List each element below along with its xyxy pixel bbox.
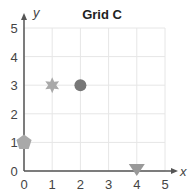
y-tick-label: 0	[10, 164, 17, 179]
x-tick-label: 0	[20, 177, 27, 192]
chart: Grid C y x 012345 012345	[0, 0, 195, 196]
x-tick-label: 4	[133, 177, 140, 192]
chart-title: Grid C	[82, 7, 122, 22]
y-tick-label: 1	[10, 135, 17, 150]
y-axis-label: y	[32, 5, 41, 20]
y-axis-arrow-icon	[21, 13, 27, 20]
x-axis-label: x	[179, 164, 187, 179]
y-tick-label: 5	[10, 21, 17, 36]
y-tick-label: 2	[10, 107, 17, 122]
y-tick-label: 4	[10, 50, 17, 65]
y-tick-labels: 012345	[10, 21, 17, 179]
triangle-down-marker	[129, 164, 145, 176]
x-tick-label: 1	[49, 177, 56, 192]
x-axis-arrow-icon	[171, 168, 178, 174]
circle-marker	[74, 79, 86, 91]
grid-lines	[24, 28, 165, 171]
x-tick-label: 5	[161, 177, 168, 192]
pentagon-marker	[16, 134, 31, 149]
x-tick-label: 3	[105, 177, 112, 192]
x-tick-labels: 012345	[20, 177, 168, 192]
x-tick-label: 2	[77, 177, 84, 192]
axes	[21, 13, 178, 174]
y-tick-label: 3	[10, 78, 17, 93]
